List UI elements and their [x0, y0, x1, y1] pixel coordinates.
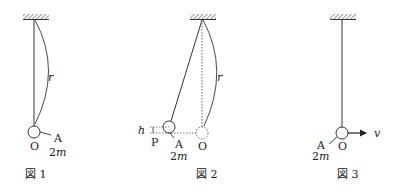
leader-line [329, 137, 337, 144]
displaced-string [171, 20, 202, 121]
figure-1-caption: 図 1 [25, 168, 47, 181]
point-p-label: P [151, 136, 159, 149]
length-label: r [48, 71, 54, 84]
point-o-label: O [30, 140, 39, 153]
ball-a [336, 127, 348, 139]
length-brace [203, 20, 217, 126]
pendulum-diagrams: r A O 2m 図 1 r h P A O 2m 図 2 v A [0, 0, 400, 194]
mass-label: 2m [170, 150, 187, 163]
figure-2: r h P A O 2m 図 2 [138, 14, 223, 181]
height-label: h [138, 124, 145, 137]
length-brace [35, 20, 49, 124]
mass-label: 2m [312, 150, 329, 163]
leader-line [170, 133, 174, 138]
mass-label: 2m [49, 146, 66, 159]
figure-2-caption: 図 2 [196, 168, 218, 181]
leader-line [40, 132, 51, 135]
figure-3-caption: 図 3 [337, 168, 359, 181]
point-o-label: O [198, 140, 207, 153]
ball-a [28, 126, 40, 138]
ceiling-support [23, 14, 49, 19]
figure-3: v A O 2m 図 3 [312, 14, 381, 181]
length-label: r [217, 71, 223, 84]
ball-label: A [53, 132, 63, 145]
ceiling-support [190, 14, 216, 19]
point-o-label: O [338, 140, 347, 153]
ceiling-support [330, 14, 356, 19]
velocity-label: v [374, 127, 381, 140]
figure-1: r A O 2m 図 1 [23, 14, 66, 181]
ghost-ball-o [196, 127, 208, 139]
